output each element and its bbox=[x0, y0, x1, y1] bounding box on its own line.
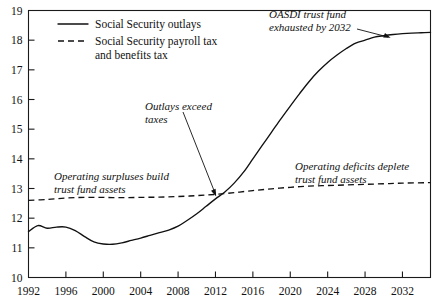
x-tick-label-2032: 2032 bbox=[391, 285, 414, 297]
x-tick-label-1992: 1992 bbox=[17, 285, 40, 297]
legend-label-outlays: Social Security outlays bbox=[95, 18, 202, 31]
chart-background bbox=[0, 0, 437, 306]
annotation-surpluses-line2: trust fund assets bbox=[54, 183, 126, 195]
line-chart: 10111213141516171819 1992199620002004200… bbox=[0, 0, 437, 306]
y-tick-label-15: 15 bbox=[11, 123, 23, 135]
y-tick-label-18: 18 bbox=[11, 34, 23, 46]
x-tick-label-2000: 2000 bbox=[92, 285, 115, 297]
annotation-outlays-exceed-line2: taxes bbox=[145, 113, 168, 125]
y-tick-label-13: 13 bbox=[11, 183, 23, 195]
annotation-outlays-exceed-line1: Outlays exceed bbox=[145, 100, 212, 112]
y-tick-label-11: 11 bbox=[11, 242, 22, 254]
y-tick-label-19: 19 bbox=[11, 5, 23, 17]
annotation-oasdi-line2: exhausted by 2032 bbox=[269, 21, 351, 33]
annotation-oasdi-line1: OASDI trust fund bbox=[269, 8, 347, 20]
y-tick-label-17: 17 bbox=[11, 64, 23, 76]
x-tick-label-1996: 1996 bbox=[54, 285, 77, 297]
annotation-deficits-line1: Operating deficits deplete bbox=[295, 160, 409, 172]
x-axis-tick-labels: 1992199620002004200820122016202020242028… bbox=[17, 285, 414, 297]
y-tick-label-10: 10 bbox=[11, 272, 23, 284]
x-tick-label-2028: 2028 bbox=[354, 285, 377, 297]
chart-figure: 10111213141516171819 1992199620002004200… bbox=[0, 0, 437, 306]
x-tick-label-2016: 2016 bbox=[241, 285, 264, 297]
annotation-surpluses-line1: Operating surpluses build bbox=[54, 170, 169, 182]
annotation-deficits-line2: trust fund assets bbox=[295, 173, 367, 185]
x-tick-label-2012: 2012 bbox=[204, 285, 227, 297]
x-tick-label-2008: 2008 bbox=[167, 285, 190, 297]
x-tick-label-2024: 2024 bbox=[316, 285, 339, 297]
x-tick-label-2004: 2004 bbox=[129, 285, 152, 297]
y-tick-label-12: 12 bbox=[11, 212, 23, 224]
y-tick-label-14: 14 bbox=[11, 153, 23, 165]
legend-label-taxes-line2: and benefits tax bbox=[95, 49, 168, 61]
x-tick-label-2020: 2020 bbox=[279, 285, 302, 297]
legend-label-taxes-line1: Social Security payroll tax bbox=[95, 35, 218, 48]
y-tick-label-16: 16 bbox=[11, 94, 23, 106]
